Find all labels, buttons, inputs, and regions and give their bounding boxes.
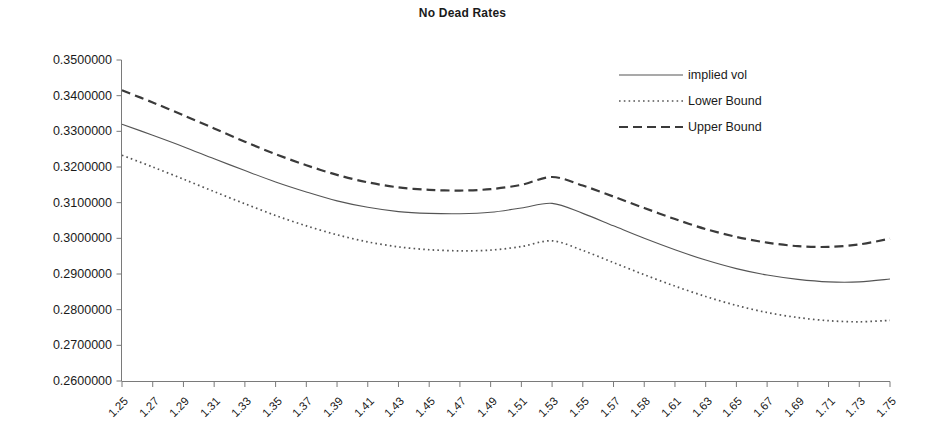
legend-item-label: Lower Bound (688, 94, 762, 108)
legend: implied volLower BoundUpper Bound (618, 62, 858, 140)
solid-line-icon (618, 69, 684, 81)
dotted-line-icon (618, 95, 684, 107)
legend-item-dashed: Upper Bound (618, 114, 858, 140)
legend-item-label: implied vol (688, 68, 747, 82)
legend-item-label: Upper Bound (688, 120, 762, 134)
legend-item-solid: implied vol (618, 62, 858, 88)
dashed-line-icon (618, 121, 684, 133)
legend-item-dotted: Lower Bound (618, 88, 858, 114)
chart-page: No Dead Rates 0.35000000.34000000.330000… (0, 0, 925, 441)
